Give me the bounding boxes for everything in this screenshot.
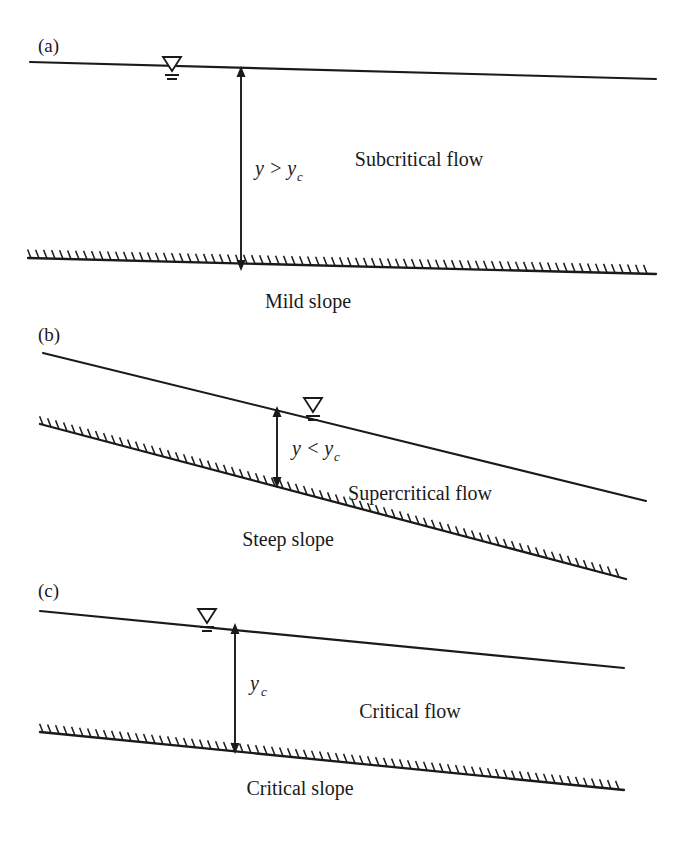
panel-a-depth-label: y > y c [253, 157, 303, 184]
panel-b-slope-label: Steep slope [242, 528, 334, 551]
panel-b-water-surface-line [43, 353, 646, 501]
panel-a: (a) [28, 35, 656, 313]
panel-c-slope-label: Critical slope [246, 777, 353, 800]
panel-a-bed-line [28, 258, 656, 274]
figure-container: (a) [0, 0, 681, 851]
panel-b-label: (b) [38, 324, 60, 346]
panel-c-depth-subscript: c [261, 684, 267, 699]
panel-c: (c) [38, 580, 624, 800]
panel-b-depth-dimension-arrow [273, 406, 282, 488]
flow-regime-diagram: (a) [0, 0, 681, 851]
panel-a-depth-label-text: y > y [253, 157, 296, 180]
panel-a-water-surface-symbol [163, 57, 181, 79]
panel-b-depth-label: y < y c [290, 437, 340, 464]
panel-a-flow-label: Subcritical flow [355, 148, 484, 170]
panel-c-water-surface-line [40, 611, 624, 668]
panel-b-depth-label-text: y < y [290, 437, 333, 460]
panel-c-label: (c) [38, 580, 59, 602]
panel-b-flow-label: Supercritical flow [348, 482, 492, 505]
panel-a-label: (a) [38, 35, 59, 57]
panel-c-depth-dimension-arrow [231, 623, 240, 754]
panel-c-flow-label: Critical flow [359, 700, 461, 722]
panel-a-depth-dimension-arrow [237, 66, 246, 271]
panel-a-depth-subscript: c [297, 169, 303, 184]
panel-b-depth-subscript: c [334, 449, 340, 464]
panel-c-depth-label: y c [248, 672, 267, 699]
panel-a-slope-label: Mild slope [265, 290, 351, 313]
panel-c-depth-label-text: y [248, 672, 259, 695]
panel-c-water-surface-symbol [198, 609, 216, 631]
panel-a-water-surface-line [30, 62, 656, 79]
panel-b: (b) [38, 324, 646, 579]
panel-b-water-surface-symbol [304, 398, 322, 420]
panel-a-channel-bed [28, 250, 656, 275]
